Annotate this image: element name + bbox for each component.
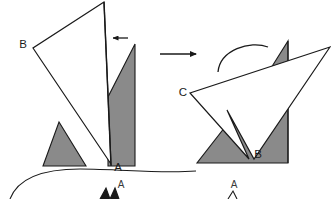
figure-root: B A C B A A bbox=[0, 0, 331, 199]
bottom-clipped-label-a-right: A bbox=[231, 179, 238, 190]
left-vertex-label-b: B bbox=[19, 38, 27, 50]
left-vertex-label-a: A bbox=[114, 161, 122, 173]
geometry-figure: B A C B A A bbox=[0, 0, 331, 199]
right-vertex-label-b: B bbox=[254, 148, 262, 160]
right-vertex-label-c: C bbox=[179, 86, 187, 98]
bottom-clipped-label-a-left: A bbox=[118, 179, 125, 190]
